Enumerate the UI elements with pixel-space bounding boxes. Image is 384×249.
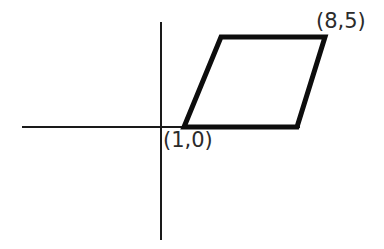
- figure-canvas: (8,5) (1,0): [0, 0, 384, 249]
- point-label-bottom-left: (1,0): [163, 130, 213, 151]
- point-label-top-right: (8,5): [316, 11, 366, 32]
- coordinate-plane-svg: [0, 0, 384, 249]
- parallelogram-shape: [184, 37, 325, 127]
